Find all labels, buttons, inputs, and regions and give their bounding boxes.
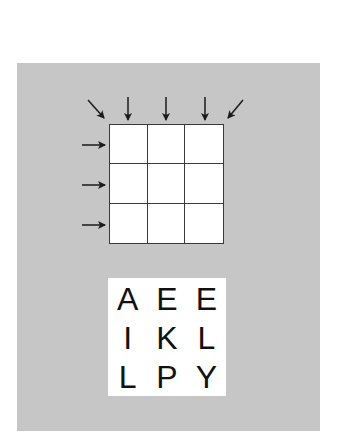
letter-tile: P [147, 357, 186, 396]
grid-cell [110, 164, 148, 203]
letter-tile: A [108, 280, 147, 319]
letter-tile: I [108, 319, 147, 358]
grid-cell [185, 125, 223, 164]
letter-tile: E [147, 280, 186, 319]
letter-tile: Y [187, 357, 226, 396]
grid-cell [148, 204, 186, 243]
grid-cell [110, 125, 148, 164]
grid-cell [110, 204, 148, 243]
letter-set-box: A E E I K L L P Y [108, 278, 226, 396]
letter-tile: L [187, 319, 226, 358]
letter-tile: K [147, 319, 186, 358]
grid-cell [185, 164, 223, 203]
grid-cell [148, 125, 186, 164]
empty-3x3-grid [109, 124, 224, 244]
letter-tile: E [187, 280, 226, 319]
grid-cell [185, 204, 223, 243]
grid-cell [148, 164, 186, 203]
letter-tile: L [108, 357, 147, 396]
